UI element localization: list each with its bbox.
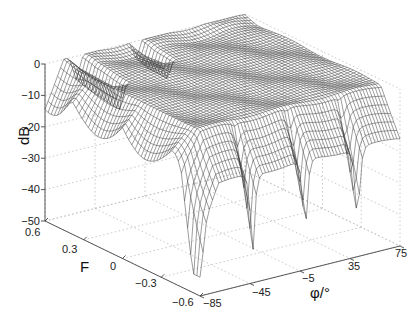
z-tick: −10: [21, 89, 40, 101]
f-tick-labels: 0.6 0.3 0 −0.3 −0.6: [25, 226, 194, 308]
f-tick: −0.3: [135, 277, 157, 289]
z-tick: −40: [21, 183, 40, 195]
z-axis-label: dB: [15, 127, 32, 145]
phi-tick: 35: [348, 260, 360, 272]
surface-mesh: [45, 15, 400, 278]
f-axis-label: F: [80, 258, 89, 275]
surface-plot: 0 −10 −20 −30 −40 −50 dB 0.6 0.3 0 −0.3 …: [0, 0, 413, 316]
phi-tick: −45: [252, 286, 271, 298]
phi-tick: −85: [203, 297, 222, 309]
f-tick: −0.6: [172, 296, 194, 308]
phi-tick: −5: [302, 272, 315, 284]
phi-axis-label: φ/°: [310, 284, 330, 301]
f-tick: 0.6: [25, 226, 40, 238]
z-tick: −30: [21, 152, 40, 164]
z-tick: 0: [34, 58, 40, 70]
f-tick: 0.3: [62, 243, 77, 255]
phi-tick-labels: −85 −45 −5 35 75: [203, 247, 407, 309]
axes: [45, 64, 400, 296]
phi-tick: 75: [395, 247, 407, 259]
f-tick: 0: [110, 260, 116, 272]
